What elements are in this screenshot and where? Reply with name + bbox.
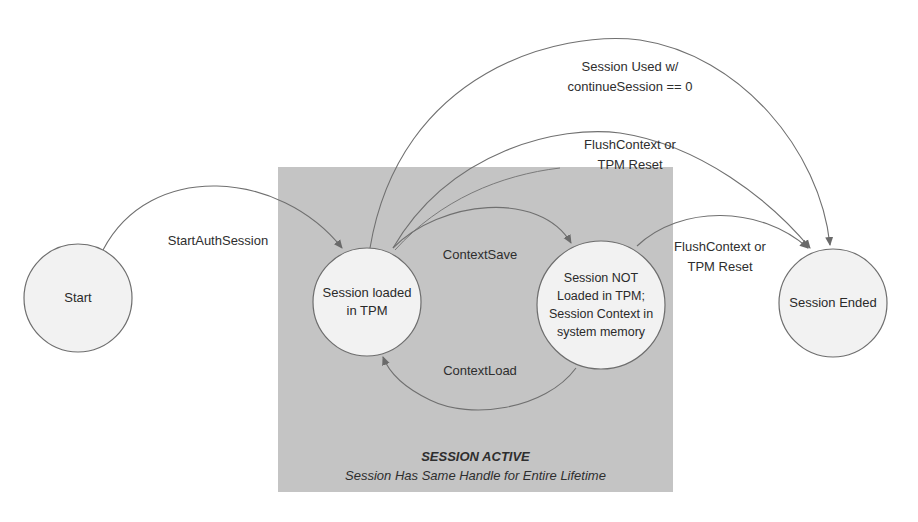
region-subtitle: Session Has Same Handle for Entire Lifet… <box>278 467 673 485</box>
edge-label-startauthsession: StartAuthSession <box>158 232 278 250</box>
edge-label-session-used-line1: Session Used w/ <box>540 58 720 76</box>
edge-label-flush-notloaded-line2: TPM Reset <box>650 258 790 276</box>
node-session-ended-label: Session Ended <box>778 285 888 321</box>
edge-label-session-used-line2: continueSession == 0 <box>540 78 720 96</box>
edge-label-contextsave: ContextSave <box>430 246 530 264</box>
node-start-label: Start <box>28 280 128 316</box>
edge-label-flush-loaded-line2: TPM Reset <box>555 156 705 174</box>
node-session-not-loaded-label: Session NOT Loaded in TPM; Session Conte… <box>536 265 666 345</box>
region-title: SESSION ACTIVE <box>278 448 673 466</box>
node-session-loaded-label: Session loaded in TPM <box>312 280 422 324</box>
edge-label-contextload: ContextLoad <box>430 362 530 380</box>
edge-label-flush-notloaded-line1: FlushContext or <box>650 238 790 256</box>
edge-label-flush-loaded-line1: FlushContext or <box>555 136 705 154</box>
